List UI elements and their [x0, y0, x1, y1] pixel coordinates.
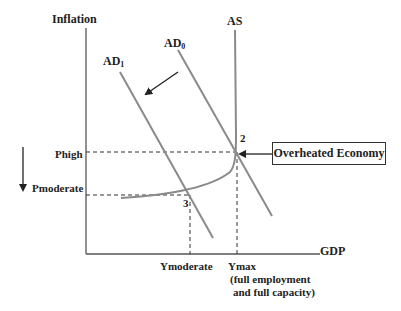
x-axis-label: GDP — [320, 245, 345, 258]
ad0-label-main: AD — [164, 36, 181, 50]
ad-as-diagram: Inflation GDP AS AD0 AD1 Phigh Pmoderate… — [0, 0, 401, 311]
point-2-label: 2 — [240, 132, 246, 145]
ad1-label-sub: 1 — [120, 60, 124, 69]
ymoderate-label: Ymoderate — [160, 260, 213, 273]
as-label: AS — [227, 15, 242, 28]
ad0-label-sub: 0 — [181, 42, 185, 51]
y-axis-label: Inflation — [52, 13, 97, 26]
ymax-note-line2: and full capacity) — [233, 286, 315, 299]
ad1-label-main: AD — [103, 54, 120, 68]
point-3-label: 3 — [183, 197, 189, 210]
shift-arrow — [146, 72, 178, 94]
phigh-label: Phigh — [55, 148, 83, 161]
ad1-label: AD1 — [103, 55, 124, 71]
overheated-economy-callout: Overheated Economy — [272, 142, 386, 165]
pmoderate-label: Pmoderate — [32, 182, 83, 195]
ymax-label: Ymax — [228, 260, 256, 273]
as-curve — [121, 30, 236, 198]
ad1-curve — [120, 72, 213, 238]
ad0-label: AD0 — [164, 37, 185, 53]
ymax-note-line1: (full employment — [230, 273, 310, 286]
ad0-curve — [178, 50, 272, 216]
